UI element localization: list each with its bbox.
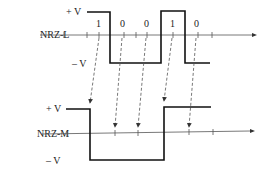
nrz-m-minus-v-label: – V <box>45 155 61 166</box>
nrz-l-minus-v-label: – V <box>71 58 87 69</box>
nrz-m-axis-arrow-icon <box>250 129 255 133</box>
nrz-l-axis-arrow-icon <box>252 33 257 37</box>
mapping-arrows <box>90 38 196 127</box>
nrz-l-label: NRZ-L <box>40 29 69 40</box>
nrz-encoding-diagram: NRZ-L + V – V 1 0 0 1 0 NRZ-M + V – V <box>0 0 262 170</box>
nrz-m-axis <box>42 131 250 134</box>
bit-label-5: 0 <box>194 18 199 29</box>
bit-label-4: 1 <box>170 18 175 29</box>
bit-label-3: 0 <box>144 18 149 29</box>
nrz-m-plus-v-label: + V <box>46 103 62 114</box>
bit-label-2: 0 <box>120 18 125 29</box>
bit-label-1: 1 <box>96 18 101 29</box>
nrz-l-plus-v-label: + V <box>66 6 82 17</box>
